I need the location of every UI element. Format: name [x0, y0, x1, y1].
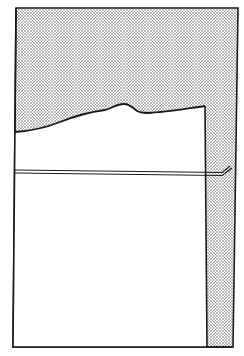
- white-region: [13, 104, 207, 347]
- diagram-canvas: [0, 0, 244, 356]
